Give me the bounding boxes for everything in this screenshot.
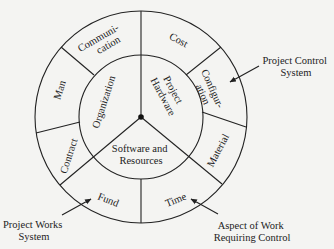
outer-label-contract: Contract xyxy=(58,137,80,175)
inner-label-organization: Organization xyxy=(90,74,118,130)
callout-aspect-of-work: Aspect of Work Requiring Control xyxy=(214,220,291,243)
inner-label-project-hardware: Project Hardware xyxy=(149,70,189,118)
center-dot xyxy=(138,114,144,120)
outer-label-time: Time xyxy=(164,190,189,208)
outer-label-configuration: Configur- ation xyxy=(189,68,227,117)
callout-project-control-system: Project Control System xyxy=(262,55,329,78)
divider-right xyxy=(202,112,246,127)
inner-label-software-resources: Software and Resources xyxy=(112,143,170,166)
callout-arrow-project-control xyxy=(230,66,259,82)
control-wheel-diagram: Organization Project Hardware Software a… xyxy=(0,0,334,249)
divider-upper-left xyxy=(61,47,94,75)
divider-left xyxy=(36,122,80,133)
outer-label-fund: Fund xyxy=(96,191,121,210)
outer-label-material: Material xyxy=(205,132,231,169)
outer-label-man: Man xyxy=(51,78,68,100)
callout-project-works-system: Project Works System xyxy=(3,219,65,242)
outer-label-communication: Communi- cation xyxy=(76,20,129,63)
outer-label-cost: Cost xyxy=(168,31,190,50)
